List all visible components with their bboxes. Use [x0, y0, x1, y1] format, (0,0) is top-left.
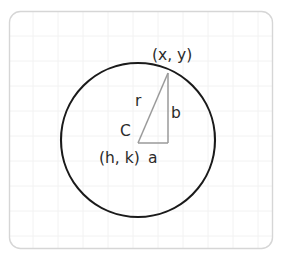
- circle-diagram-figure: (x, y) r b C (h, k) a: [0, 0, 283, 260]
- diagram-canvas: (x, y) r b C (h, k) a: [0, 0, 283, 260]
- label-center-coords: (h, k): [99, 149, 140, 167]
- label-point-on-circle: (x, y): [152, 46, 192, 64]
- label-radius: r: [135, 92, 142, 110]
- label-center-letter: C: [120, 122, 131, 140]
- radius-triangle: [138, 73, 168, 143]
- radius-hypotenuse-line: [138, 73, 168, 143]
- background-grid: [9, 11, 272, 248]
- label-horizontal-leg: a: [148, 149, 158, 167]
- label-vertical-leg: b: [171, 104, 181, 122]
